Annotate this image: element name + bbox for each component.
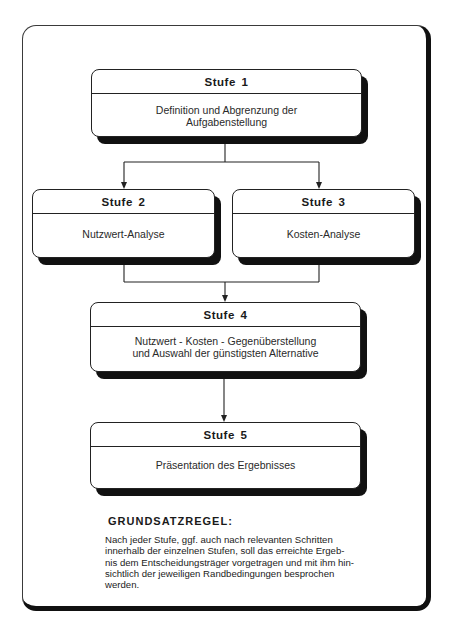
rule-heading: GRUNDSATZREGEL: xyxy=(108,515,355,527)
rule-text: Nach jeder Stufe, ggf. auch nach relevan… xyxy=(105,534,355,590)
stage-1-box: Stufe 1 Definition und Abgrenzung der Au… xyxy=(91,69,362,137)
stage-5-title: Stufe 5 xyxy=(91,423,360,447)
stage-4-title: Stufe 4 xyxy=(91,303,360,327)
stage-2-text: Nutzwert-Analyse xyxy=(33,214,214,258)
stage-4-text: Nutzwert - Kosten - Gegenüberstellung un… xyxy=(91,327,360,371)
stage-5-text: Präsentation des Ergebnisses xyxy=(91,447,360,489)
stage-5-box: Stufe 5 Präsentation des Ergebnisses xyxy=(90,422,361,489)
stage-3-box: Stufe 3 Kosten-Analyse xyxy=(232,189,415,258)
stage-1-text: Definition und Abgrenzung der Aufgabenst… xyxy=(92,94,361,137)
stage-1-title: Stufe 1 xyxy=(92,70,361,94)
stage-3-title: Stufe 3 xyxy=(233,190,414,214)
rule-section: GRUNDSATZREGEL: Nach jeder Stufe, ggf. a… xyxy=(105,515,355,590)
stage-2-box: Stufe 2 Nutzwert-Analyse xyxy=(32,189,215,258)
stage-4-box: Stufe 4 Nutzwert - Kosten - Gegenüberste… xyxy=(90,302,361,372)
stage-2-title: Stufe 2 xyxy=(33,190,214,214)
stage-3-text: Kosten-Analyse xyxy=(233,214,414,258)
